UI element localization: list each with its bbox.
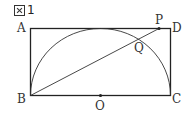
label-a: A [16, 21, 26, 35]
label-d: D [172, 21, 182, 35]
point-o-dot [99, 94, 102, 97]
label-q: Q [134, 41, 144, 55]
geometry-diagram: A B C D O P Q [0, 0, 191, 114]
label-b: B [17, 92, 26, 106]
point-p-dot [157, 27, 160, 30]
segment-bp [31, 29, 160, 96]
semicircle-arc [31, 28, 171, 95]
rectangle-abcd [31, 29, 171, 96]
label-c: C [172, 92, 181, 106]
label-p: P [155, 13, 163, 27]
label-o: O [95, 99, 105, 113]
